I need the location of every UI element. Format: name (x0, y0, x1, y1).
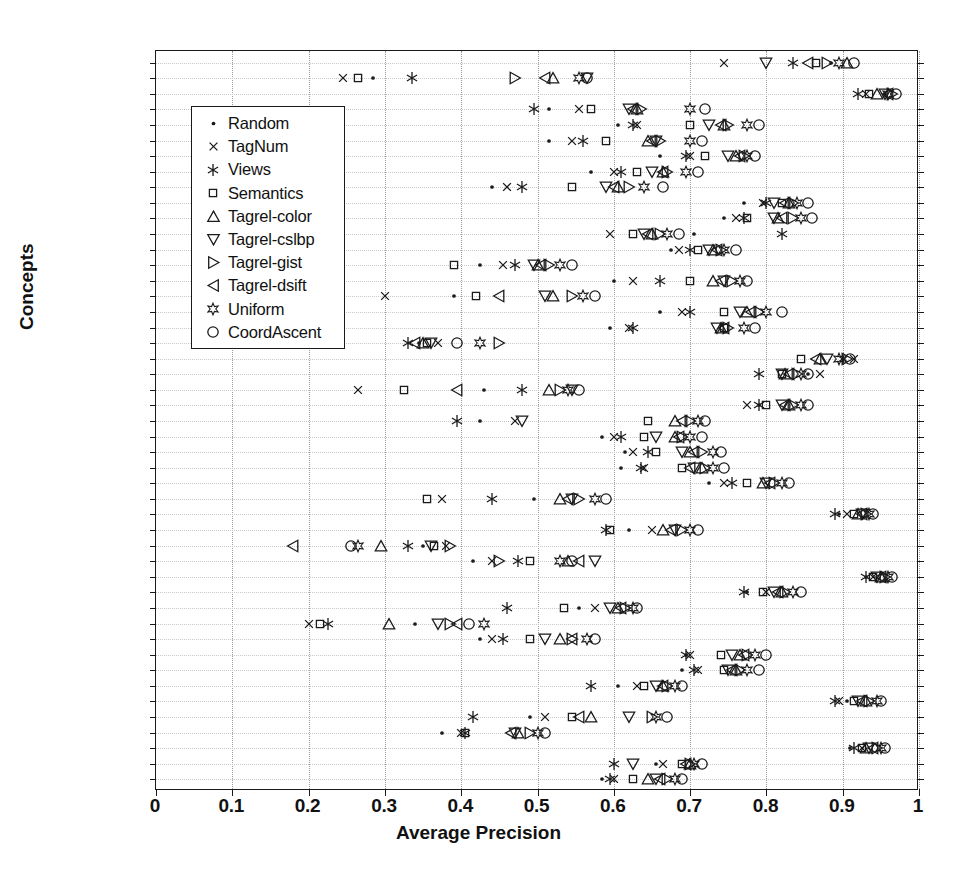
legend-item-label: TagNum (228, 137, 288, 156)
y-gridline (156, 561, 917, 562)
x-tick (385, 789, 386, 796)
chart-page: Concepts Average Precision airplaneairpo… (0, 0, 957, 872)
x-tick (461, 789, 462, 796)
legend-item-views[interactable]: Views (192, 158, 344, 181)
y-tick-right (917, 281, 924, 282)
y-tick-right (917, 686, 924, 687)
x-tick (919, 789, 920, 796)
x-tick (690, 789, 691, 796)
y-tick (150, 390, 156, 391)
x-tick-label: 0.8 (753, 795, 779, 817)
legend-item-coordascent[interactable]: CoordAscent (192, 321, 344, 344)
y-tick (150, 514, 156, 515)
y-tick (150, 141, 156, 142)
y-gridline (156, 530, 917, 531)
y-gridline (156, 78, 917, 79)
y-axis-label: Concepts (16, 243, 38, 330)
y-tick-right (917, 94, 924, 95)
y-tick-right (917, 172, 924, 173)
legend-item-tagnum[interactable]: TagNum (192, 135, 344, 158)
legend-item-label: Tagrel-cslbp (228, 230, 315, 249)
legend-item-uniform[interactable]: Uniform (192, 298, 344, 321)
y-gridline (156, 670, 917, 671)
y-tick (150, 717, 156, 718)
y-tick-right (917, 187, 924, 188)
tri-down-marker-icon (198, 232, 228, 247)
x-gridline (766, 51, 767, 789)
y-tick (150, 78, 156, 79)
y-gridline (156, 437, 917, 438)
y-tick (150, 405, 156, 406)
y-tick-right (917, 156, 924, 157)
y-gridline (156, 608, 917, 609)
y-tick-right (917, 343, 924, 344)
legend-item-tagrel-cslbp[interactable]: Tagrel-cslbp (192, 228, 344, 251)
x-tick-label: 0.2 (295, 795, 321, 817)
legend-item-label: Random (228, 114, 289, 133)
y-tick-right (917, 203, 924, 204)
square-marker-icon (198, 187, 228, 199)
y-tick-right (917, 655, 924, 656)
y-tick-right (917, 296, 924, 297)
chart-legend: RandomTagNumViewsSemanticsTagrel-colorTa… (191, 106, 345, 349)
y-gridline (156, 421, 917, 422)
circle-marker-icon (198, 325, 228, 339)
dot-marker-icon (198, 118, 228, 129)
legend-item-label: CoordAscent (228, 323, 321, 342)
x-tick (766, 789, 767, 796)
y-gridline (156, 639, 917, 640)
y-tick (150, 312, 156, 313)
y-gridline (156, 483, 917, 484)
x-gridline (461, 51, 462, 789)
legend-item-tagrel-dsift[interactable]: Tagrel-dsift (192, 274, 344, 297)
y-tick (150, 748, 156, 749)
y-gridline (156, 764, 917, 765)
y-tick-right (917, 109, 924, 110)
y-gridline (156, 452, 917, 453)
x-marker-icon (198, 140, 228, 153)
y-gridline (156, 514, 917, 515)
y-tick-right (917, 452, 924, 453)
y-tick (150, 452, 156, 453)
legend-item-tagrel-gist[interactable]: Tagrel-gist (192, 251, 344, 274)
y-tick (150, 187, 156, 188)
y-tick-right (917, 639, 924, 640)
x-gridline (385, 51, 386, 789)
y-tick (150, 218, 156, 219)
y-gridline (156, 592, 917, 593)
y-tick-right (917, 577, 924, 578)
legend-item-tagrel-color[interactable]: Tagrel-color (192, 205, 344, 228)
legend-item-label: Views (228, 160, 271, 179)
legend-item-semantics[interactable]: Semantics (192, 182, 344, 205)
x-gridline (919, 51, 920, 789)
legend-item-label: Semantics (228, 184, 303, 203)
y-tick (150, 94, 156, 95)
y-tick-right (917, 561, 924, 562)
y-gridline (156, 624, 917, 625)
y-tick (150, 437, 156, 438)
x-tick-label: 0.4 (447, 795, 473, 817)
y-tick (150, 483, 156, 484)
y-tick-right (917, 437, 924, 438)
y-tick (150, 281, 156, 282)
y-tick (150, 546, 156, 547)
y-gridline (156, 655, 917, 656)
y-tick (150, 624, 156, 625)
y-tick-right (917, 468, 924, 469)
y-tick-right (917, 250, 924, 251)
y-tick-right (917, 218, 924, 219)
asterisk-marker-icon (198, 163, 228, 177)
y-tick (150, 296, 156, 297)
tri-left-marker-icon (198, 278, 228, 293)
y-tick (150, 733, 156, 734)
y-tick (150, 530, 156, 531)
y-tick-right (917, 499, 924, 500)
x-tick-label: 0.5 (524, 795, 550, 817)
y-tick (150, 468, 156, 469)
legend-item-random[interactable]: Random (192, 112, 344, 135)
y-tick-right (917, 624, 924, 625)
y-tick-right (917, 141, 924, 142)
y-tick (150, 608, 156, 609)
y-tick (150, 686, 156, 687)
y-tick (150, 234, 156, 235)
